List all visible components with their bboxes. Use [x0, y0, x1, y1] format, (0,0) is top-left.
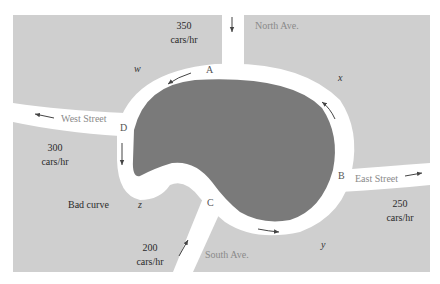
north-flow-value: 350 — [177, 20, 192, 31]
west-flow-value: 300 — [48, 142, 63, 153]
east-flow-value: 250 — [393, 198, 408, 209]
west-street-label: West Street — [61, 113, 107, 124]
variable-x: x — [337, 72, 343, 83]
variable-y: y — [320, 239, 326, 250]
traffic-diagram: North Ave. West Street East Street South… — [0, 0, 440, 284]
variable-z: z — [137, 199, 142, 210]
variable-w: w — [134, 63, 141, 74]
intersection-b: B — [338, 170, 345, 181]
east-street-label: East Street — [355, 173, 398, 184]
bad-curve-label: Bad curve — [68, 199, 109, 210]
north-ave-label: North Ave. — [255, 20, 299, 31]
south-flow-value: 200 — [143, 242, 158, 253]
north-flow-unit: cars/hr — [170, 34, 198, 45]
intersection-d: D — [120, 122, 127, 133]
intersection-a: A — [206, 64, 214, 75]
west-flow-unit: cars/hr — [41, 156, 69, 167]
east-flow-unit: cars/hr — [386, 212, 414, 223]
intersection-c: C — [207, 197, 214, 208]
south-ave-label: South Ave. — [205, 249, 249, 260]
south-flow-unit: cars/hr — [136, 256, 164, 267]
